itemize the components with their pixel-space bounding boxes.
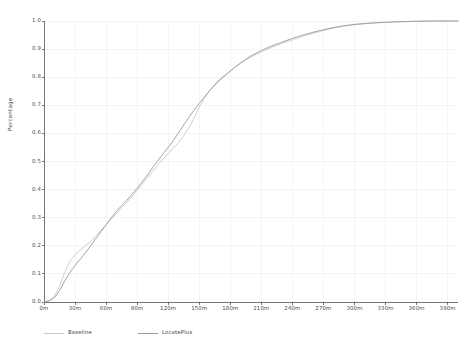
legend-line-swatch: [138, 333, 158, 334]
legend-entry-locateplus[interactable]: LocatePlus: [138, 326, 192, 340]
chart-figure: Percentage 0.00.10.20.30.40.50.60.70.80.…: [0, 0, 471, 349]
legend-entry-baseline[interactable]: Baseline: [44, 326, 92, 340]
axis-ticks: [42, 21, 448, 305]
legend-label: Baseline: [68, 330, 92, 335]
legend-line-swatch: [44, 333, 64, 334]
chart-legend: BaselineLocatePlus: [44, 326, 458, 342]
plot-canvas: [0, 0, 471, 349]
gridlines: [44, 21, 458, 302]
legend-label: LocatePlus: [162, 330, 192, 335]
